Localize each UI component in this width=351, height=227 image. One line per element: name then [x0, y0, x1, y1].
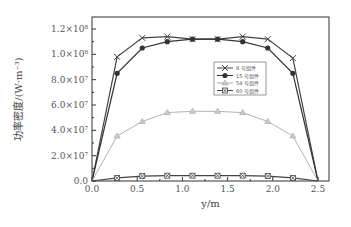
- series-1: [92, 37, 318, 181]
- x-tick-label: 1.5: [220, 184, 235, 194]
- x-tick-label: 0.0: [85, 184, 100, 194]
- series-2: [92, 108, 318, 181]
- x-tick-label: 1.0: [175, 184, 190, 194]
- y-tick-label: 2.0×10⁷: [51, 151, 88, 161]
- y-tick-label: 1.2×10⁸: [51, 24, 88, 34]
- power-density-chart: 0.02.0×10⁷4.0×10⁷6.0×10⁷8.0×10⁷1.0×10⁸1.…: [0, 0, 351, 227]
- y-axis-label: 功率密度/(W·m⁻³): [12, 57, 24, 140]
- legend-label: 15 号组件: [236, 73, 259, 80]
- plot-frame: [92, 17, 329, 181]
- legend-label: 60 号组件: [236, 88, 259, 95]
- legend-label: 54 号组件: [236, 80, 259, 87]
- legend-label: 8 号组件: [236, 65, 256, 72]
- y-tick-label: 4.0×10⁷: [51, 125, 88, 135]
- x-axis-label: y/m: [200, 198, 220, 209]
- x-tick-label: 2.5: [311, 184, 326, 194]
- y-tick-label: 6.0×10⁷: [51, 100, 88, 110]
- series-0: [92, 34, 318, 181]
- legend: 8 号组件15 号组件54 号组件60 号组件: [214, 62, 266, 95]
- y-tick-label: 1.0×10⁸: [51, 49, 88, 59]
- x-tick-label: 2.0: [266, 184, 281, 194]
- y-tick-label: 8.0×10⁷: [51, 75, 88, 85]
- x-tick-label: 0.5: [130, 184, 145, 194]
